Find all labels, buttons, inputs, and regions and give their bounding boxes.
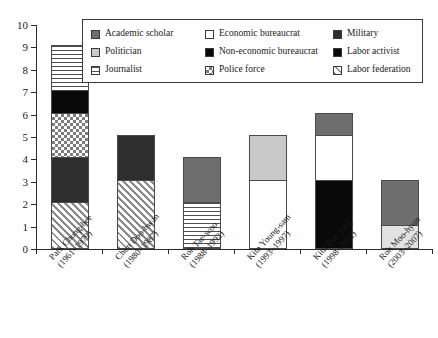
y-tick-label-4: 4 xyxy=(23,154,29,165)
legend-label: Non-economic bureaucrat xyxy=(219,47,318,57)
x-tick-3 xyxy=(234,249,235,254)
legend-swatch-police-icon xyxy=(205,66,214,75)
legend-swatch-journalist-icon xyxy=(91,66,100,75)
y-tick-1 xyxy=(31,227,36,228)
legend-swatch-econ-icon xyxy=(205,30,214,39)
stacked-bar-chart: 012345678910 Park Chung-hee(1961–1979)Ch… xyxy=(0,0,438,338)
bar-4-segment-academic xyxy=(316,114,352,136)
y-tick-7 xyxy=(31,92,36,93)
x-tick-1 xyxy=(102,249,103,254)
y-tick-label-5: 5 xyxy=(23,132,29,143)
legend-label: Politician xyxy=(105,47,141,57)
legend-label: Labor activist xyxy=(347,47,400,57)
y-tick-9 xyxy=(31,47,36,48)
x-tick-6 xyxy=(432,249,433,254)
y-tick-5 xyxy=(31,137,36,138)
y-tick-label-8: 8 xyxy=(23,64,29,75)
y-tick-label-10: 10 xyxy=(17,20,28,31)
y-tick-label-9: 9 xyxy=(23,42,29,53)
legend-label: Academic scholar xyxy=(105,29,173,39)
legend-swatch-nonecon-icon xyxy=(205,48,214,57)
legend-label: Labor federation xyxy=(347,65,411,75)
x-tick-0 xyxy=(36,249,37,254)
bar-0-segment-nonecon xyxy=(52,91,88,113)
x-tick-2 xyxy=(168,249,169,254)
legend-label: Police force xyxy=(219,65,265,75)
legend-item-nonecon[interactable]: Non-economic bureaucrat xyxy=(205,47,331,57)
bar-0-segment-military xyxy=(52,158,88,203)
y-tick-label-2: 2 xyxy=(23,199,29,210)
y-tick-4 xyxy=(31,159,36,160)
legend-item-police[interactable]: Police force xyxy=(205,65,331,75)
y-tick-label-7: 7 xyxy=(23,87,29,98)
legend-item-military[interactable]: Military xyxy=(333,29,416,39)
legend-swatch-military-icon xyxy=(333,30,342,39)
legend-label: Military xyxy=(347,29,378,39)
y-tick-label-3: 3 xyxy=(23,176,29,187)
y-tick-2 xyxy=(31,204,36,205)
legend-swatch-laborfed-icon xyxy=(333,66,342,75)
y-tick-label-6: 6 xyxy=(23,109,29,120)
legend-item-laboract[interactable]: Labor activist xyxy=(333,47,416,57)
legend-item-journalist[interactable]: Journalist xyxy=(91,65,203,75)
legend-item-politician[interactable]: Politician xyxy=(91,47,203,57)
legend-item-academic[interactable]: Academic scholar xyxy=(91,29,203,39)
legend-swatch-academic-icon xyxy=(91,30,100,39)
legend-item-laborfed[interactable]: Labor federation xyxy=(333,65,416,75)
legend-item-econ[interactable]: Economic bureaucrat xyxy=(205,29,331,39)
chart-legend: Academic scholarEconomic bureaucratMilit… xyxy=(82,19,423,83)
y-tick-3 xyxy=(31,182,36,183)
y-tick-6 xyxy=(31,115,36,116)
y-tick-label-0: 0 xyxy=(23,244,29,255)
bar-0-segment-police xyxy=(52,114,88,159)
x-tick-5 xyxy=(366,249,367,254)
y-tick-8 xyxy=(31,70,36,71)
legend-swatch-laboract-icon xyxy=(333,48,342,57)
legend-label: Journalist xyxy=(105,65,142,75)
y-tick-label-1: 1 xyxy=(23,221,29,232)
y-tick-10 xyxy=(31,25,36,26)
x-tick-4 xyxy=(300,249,301,254)
legend-swatch-politician-icon xyxy=(91,48,100,57)
legend-label: Economic bureaucrat xyxy=(219,29,300,39)
